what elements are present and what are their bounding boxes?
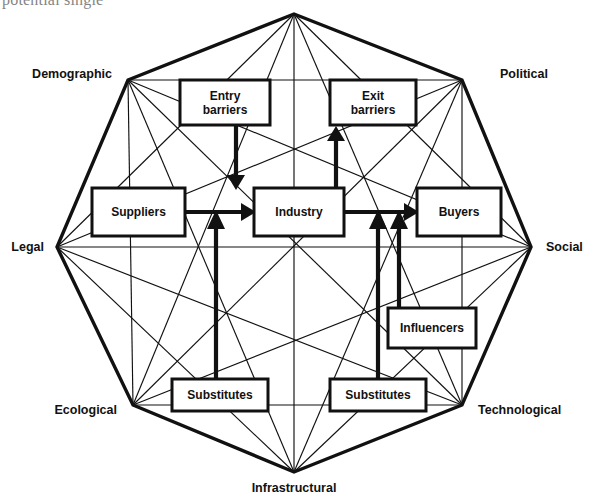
node-label-buyers: Buyers bbox=[439, 205, 480, 219]
vertex-label-infrastructural: Infrastructural bbox=[252, 481, 337, 495]
node-label-line2-exit-barriers: barriers bbox=[351, 103, 396, 117]
node-label-line1-substitutes-right: Substitutes bbox=[345, 388, 411, 402]
flow-arrow-layer bbox=[185, 125, 419, 379]
diagram-canvas: potential single bbox=[0, 0, 590, 500]
chord-ecological-to-demographic bbox=[128, 80, 133, 405]
node-label-line1-exit-barriers: Exit bbox=[362, 89, 384, 103]
chord-social-to-infrastructural bbox=[294, 247, 531, 472]
vertex-label-political: Political bbox=[500, 67, 548, 81]
vertex-label-demographic: Demographic bbox=[32, 67, 112, 81]
node-box-suppliers[interactable]: Suppliers bbox=[92, 188, 185, 236]
node-label-line1-suppliers: Suppliers bbox=[111, 205, 166, 219]
node-label-suppliers: Suppliers bbox=[111, 205, 166, 219]
flow-influencers-to-buyers bbox=[390, 210, 408, 308]
node-label-line1-substitutes-left: Substitutes bbox=[187, 388, 253, 402]
flow-substitutes-left-to-industry bbox=[207, 210, 225, 379]
node-box-exit-barriers[interactable]: Exitbarriers bbox=[330, 80, 416, 125]
node-label-line1-industry: Industry bbox=[275, 205, 323, 219]
node-label-line1-influencers: Influencers bbox=[400, 321, 464, 335]
node-label-line1-entry-barriers: Entry bbox=[210, 89, 241, 103]
node-box-industry[interactable]: Industry bbox=[254, 188, 344, 236]
vertex-label-layer: PoliticalSocialTechnologicalInfrastructu… bbox=[11, 67, 582, 495]
flow-industry-to-exit-barriers bbox=[327, 126, 345, 188]
vertex-label-legal: Legal bbox=[11, 240, 44, 254]
flow-substitutes-right-to-buyers bbox=[369, 210, 387, 379]
environment-decagon-diagram: EntrybarriersExitbarriersSuppliersIndust… bbox=[0, 0, 590, 500]
node-box-substitutes-left[interactable]: Substitutes bbox=[172, 379, 268, 411]
node-label-industry: Industry bbox=[275, 205, 323, 219]
node-box-influencers[interactable]: Influencers bbox=[388, 308, 476, 348]
node-label-substitutes-right: Substitutes bbox=[345, 388, 411, 402]
node-box-substitutes-right[interactable]: Substitutes bbox=[330, 379, 426, 411]
flow-entry-barriers-to-industry bbox=[227, 125, 245, 190]
node-box-entry-barriers[interactable]: Entrybarriers bbox=[180, 80, 270, 125]
vertex-label-ecological: Ecological bbox=[54, 403, 117, 417]
node-label-line1-buyers: Buyers bbox=[439, 205, 480, 219]
node-label-substitutes-left: Substitutes bbox=[187, 388, 253, 402]
node-box-layer: EntrybarriersExitbarriersSuppliersIndust… bbox=[92, 80, 501, 411]
vertex-label-social: Social bbox=[546, 240, 583, 254]
vertex-label-technological: Technological bbox=[478, 403, 561, 417]
flow-suppliers-to-industry bbox=[185, 203, 256, 221]
node-box-buyers[interactable]: Buyers bbox=[417, 188, 501, 236]
node-label-influencers: Influencers bbox=[400, 321, 464, 335]
node-label-line2-entry-barriers: barriers bbox=[203, 103, 248, 117]
